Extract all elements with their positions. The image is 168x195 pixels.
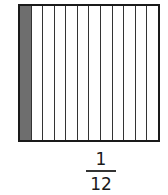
fraction-label: 1 12 xyxy=(84,150,118,193)
unshaded-strip xyxy=(43,6,55,140)
denominator: 12 xyxy=(90,175,112,193)
unshaded-strip xyxy=(113,6,125,140)
fraction-bar xyxy=(86,170,116,172)
unshaded-strip xyxy=(66,6,78,140)
unshaded-strip xyxy=(124,6,136,140)
unshaded-strip xyxy=(78,6,90,140)
shaded-strip xyxy=(20,6,32,140)
unshaded-strip xyxy=(32,6,44,140)
unshaded-strip xyxy=(147,6,158,140)
unshaded-strip xyxy=(55,6,67,140)
fraction-square xyxy=(18,4,160,142)
unshaded-strip xyxy=(101,6,113,140)
numerator: 1 xyxy=(96,150,107,168)
unshaded-strip xyxy=(89,6,101,140)
unshaded-strip xyxy=(136,6,148,140)
